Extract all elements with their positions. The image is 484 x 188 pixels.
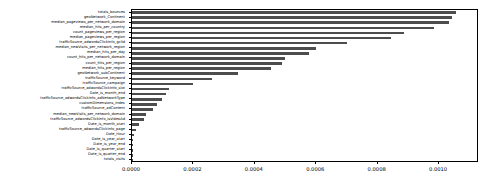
y-axis-label: median_pageviews_per_network_domain bbox=[51, 20, 125, 24]
bar-row bbox=[132, 134, 477, 137]
bar-row bbox=[132, 93, 477, 96]
bar bbox=[132, 93, 166, 96]
bar-row bbox=[132, 37, 477, 40]
y-axis-label: trafficSource_adwordsClickInfo_gclId bbox=[59, 40, 125, 44]
bar-row bbox=[132, 11, 477, 14]
bar bbox=[132, 144, 133, 147]
x-axis-label: 0.0000 bbox=[122, 166, 140, 172]
y-axis-label: trafficSource_keyword bbox=[85, 76, 125, 80]
y-axis-label: geoNetwork_subContinent bbox=[78, 71, 126, 75]
y-axis-label: trafficSource_adContent bbox=[82, 106, 125, 110]
y-axis-label: median_pageviews_per_region bbox=[70, 35, 125, 39]
bar-row bbox=[132, 47, 477, 50]
bar-row bbox=[132, 16, 477, 19]
bar-row bbox=[132, 62, 477, 65]
bar-row bbox=[132, 21, 477, 24]
y-axis-label: median_hits_per_day bbox=[87, 50, 125, 54]
bar bbox=[132, 72, 238, 75]
bar-row bbox=[132, 67, 477, 70]
bar bbox=[132, 37, 391, 40]
bar bbox=[132, 52, 309, 55]
bar bbox=[132, 78, 212, 81]
y-axis-label: trafficSource_adwordsClickInfo_adNetwork… bbox=[40, 96, 125, 100]
x-tick-mark bbox=[315, 162, 316, 164]
bar-row bbox=[132, 103, 477, 106]
bar bbox=[132, 57, 285, 60]
y-axis-label: median_newVisits_per_network_domain bbox=[53, 112, 125, 116]
bar-row bbox=[132, 154, 477, 157]
bar-row bbox=[132, 159, 477, 161]
y-axis-label: Date_is_year_end bbox=[93, 142, 125, 146]
x-axis-label: 0.0004 bbox=[245, 166, 263, 172]
y-axis-label: Date_is_month_start bbox=[88, 122, 125, 126]
y-axis-label: totals_visits bbox=[104, 157, 125, 161]
y-axis-label: geoNetwork_Continent bbox=[84, 15, 125, 19]
bars-container bbox=[132, 10, 477, 161]
bar-row bbox=[132, 113, 477, 116]
plot-axes bbox=[131, 9, 478, 162]
y-axis-label: Date_Hour bbox=[106, 132, 125, 136]
bar bbox=[132, 21, 449, 24]
y-axis-label: count_hits_per_region bbox=[86, 61, 125, 65]
bar-row bbox=[132, 42, 477, 45]
bar bbox=[132, 42, 347, 45]
bar-row bbox=[132, 27, 477, 30]
x-tick-mark bbox=[254, 162, 255, 164]
bar bbox=[132, 149, 133, 152]
bar-row bbox=[132, 52, 477, 55]
bar-row bbox=[132, 98, 477, 101]
y-axis-label: Date_is_month_end bbox=[90, 91, 125, 95]
bar-row bbox=[132, 123, 477, 126]
bar-row bbox=[132, 129, 477, 132]
bar bbox=[132, 11, 456, 14]
y-axis-label: trafficSource_adwordsClickInfo_page bbox=[59, 127, 125, 131]
y-axis-tick-labels: totals_bouncesgeoNetwork_Continentmedian… bbox=[0, 9, 128, 162]
x-axis-label: 0.0006 bbox=[306, 166, 324, 172]
bar bbox=[132, 118, 144, 121]
x-tick-mark bbox=[438, 162, 439, 164]
y-axis-label: count_pageviews_per_region bbox=[73, 30, 125, 34]
x-tick-mark bbox=[131, 162, 132, 164]
bar-row bbox=[132, 57, 477, 60]
y-axis-label: trafficSource_adwordsClickInfo_slot bbox=[61, 86, 125, 90]
x-axis-tick-labels: 0.00000.00020.00040.00060.00080.0010 bbox=[131, 162, 478, 184]
bar-row bbox=[132, 32, 477, 35]
bar bbox=[132, 27, 434, 30]
x-axis-label: 0.0010 bbox=[429, 166, 447, 172]
bar bbox=[132, 98, 162, 101]
bar bbox=[132, 129, 136, 132]
y-axis-label: Date_is_quarter_start bbox=[86, 147, 125, 151]
bar bbox=[132, 123, 139, 126]
bar bbox=[132, 16, 452, 19]
bar bbox=[132, 88, 169, 91]
bar-row bbox=[132, 118, 477, 121]
bar bbox=[132, 47, 316, 50]
x-axis-label: 0.0002 bbox=[183, 166, 201, 172]
y-axis-label: totals_bounces bbox=[98, 10, 125, 14]
y-axis-label: median_hits_per_region bbox=[82, 66, 125, 70]
bar-row bbox=[132, 149, 477, 152]
bar bbox=[132, 113, 146, 116]
bar-row bbox=[132, 83, 477, 86]
y-axis-label: Date_is_year_start bbox=[92, 137, 125, 141]
y-axis-label: customDimensions_index bbox=[79, 101, 125, 105]
y-axis-label: Date_is_quarter_end bbox=[88, 152, 125, 156]
bar-row bbox=[132, 88, 477, 91]
bar bbox=[132, 134, 134, 137]
bar bbox=[132, 103, 157, 106]
bar bbox=[132, 83, 193, 86]
bar bbox=[132, 154, 133, 157]
x-axis-label: 0.0008 bbox=[368, 166, 386, 172]
bar-row bbox=[132, 72, 477, 75]
bar-row bbox=[132, 108, 477, 111]
figure-canvas: totals_bouncesgeoNetwork_Continentmedian… bbox=[0, 0, 484, 188]
y-axis-label: trafficSource_adwordsClickInfo_isVideoAd bbox=[50, 117, 125, 121]
bar bbox=[132, 62, 282, 65]
bar-row bbox=[132, 139, 477, 142]
bar bbox=[132, 108, 153, 111]
bar bbox=[132, 67, 271, 70]
y-axis-label: median_hits_per_country bbox=[80, 25, 125, 29]
bar-row bbox=[132, 78, 477, 81]
y-axis-label: median_newVisits_per_network_region bbox=[55, 45, 125, 49]
bar-row bbox=[132, 144, 477, 147]
